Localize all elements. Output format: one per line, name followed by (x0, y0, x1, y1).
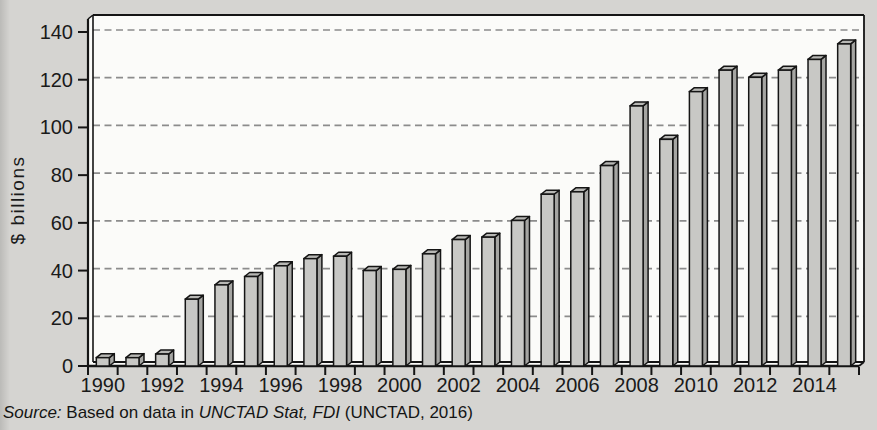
y-tick-label-120: 120 (40, 69, 73, 91)
source-label: Source: (3, 403, 66, 422)
source-cited-work: UNCTAD Stat, FDI (199, 403, 340, 422)
bar-1991 (126, 358, 139, 366)
bar-1997 (304, 259, 317, 366)
source-note: Source: Based on data in UNCTAD Stat, FD… (3, 403, 473, 423)
bar-2007 (600, 166, 613, 366)
bar-1995 (245, 277, 258, 366)
x-tick-label-2002: 2002 (436, 374, 481, 396)
bar-2002 (452, 240, 465, 366)
bar-2004 (511, 220, 524, 366)
y-tick-label-100: 100 (40, 116, 73, 138)
bar-2000 (393, 269, 406, 366)
bar-2009 (660, 139, 673, 366)
plot-area (88, 15, 864, 366)
x-tick-label-1992: 1992 (140, 374, 185, 396)
source-text-after: (UNCTAD, 2016) (340, 403, 473, 422)
bar-1996 (274, 266, 287, 366)
bar-2001 (423, 254, 436, 366)
bar-1992 (156, 354, 169, 366)
x-tick-label-1996: 1996 (259, 374, 304, 396)
y-tick-label-40: 40 (51, 260, 73, 282)
bar-1990 (96, 358, 109, 366)
bar-2008 (630, 106, 643, 366)
bar-1993 (185, 299, 198, 366)
bar-2014 (808, 59, 821, 366)
x-tick-label-2004: 2004 (496, 374, 541, 396)
x-tick-label-1990: 1990 (81, 374, 126, 396)
bar-2013 (778, 70, 791, 366)
x-tick-label-1998: 1998 (318, 374, 363, 396)
bar-2003 (482, 237, 495, 366)
y-tick-label-140: 140 (40, 21, 73, 43)
y-tick-label-80: 80 (51, 164, 73, 186)
x-tick-label-2012: 2012 (733, 374, 778, 396)
y-axis-title: $ billions (7, 154, 31, 246)
bar-1994 (215, 285, 228, 366)
x-tick-label-2008: 2008 (614, 374, 659, 396)
x-tick-label-1994: 1994 (199, 374, 244, 396)
bar-2005 (541, 194, 554, 366)
bar-2011 (719, 70, 732, 366)
bar-chart: 0204060801001201401990199219941996199820… (0, 0, 877, 430)
bar-1998 (334, 256, 347, 366)
x-tick-label-2010: 2010 (674, 374, 719, 396)
x-tick-label-2014: 2014 (792, 374, 837, 396)
source-text-before: Based on data in (66, 403, 198, 422)
figure-container: 0204060801001201401990199219941996199820… (0, 0, 877, 430)
bar-2012 (749, 77, 762, 366)
bar-2015 (838, 44, 851, 366)
x-tick-label-2000: 2000 (377, 374, 422, 396)
bar-2010 (689, 92, 702, 366)
y-tick-label-20: 20 (51, 307, 73, 329)
bar-2006 (571, 192, 584, 366)
y-tick-label-60: 60 (51, 212, 73, 234)
x-tick-label-2006: 2006 (555, 374, 600, 396)
y-tick-label-0: 0 (62, 355, 73, 377)
bar-1999 (363, 271, 376, 366)
